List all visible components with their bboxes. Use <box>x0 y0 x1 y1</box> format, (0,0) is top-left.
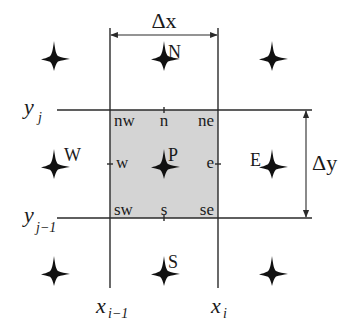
face-label-w: w <box>116 153 129 172</box>
node-label-north: N <box>168 42 181 62</box>
svg-text:i: i <box>223 306 227 321</box>
node-label-south: S <box>168 252 178 272</box>
node-label-west: W <box>64 145 81 165</box>
face-label-n: n <box>160 111 169 130</box>
axis-label-y-j-minus-1: y j−1 <box>22 202 56 235</box>
star-icon-east <box>259 149 288 179</box>
dx-label: Δx <box>151 8 176 33</box>
face-label-e: e <box>206 153 214 172</box>
svg-text:x: x <box>210 293 221 318</box>
face-label-s: s <box>161 200 168 219</box>
face-label-ne: ne <box>198 111 214 130</box>
svg-text:j−1: j−1 <box>34 220 56 235</box>
face-label-nw: nw <box>114 111 136 130</box>
control-volume-diagram: Δx Δy y j y j−1 x i−1 x i nw n ne w e sw… <box>0 0 356 334</box>
face-label-se: se <box>200 200 214 219</box>
star-icon-southeast <box>259 256 288 286</box>
svg-text:y: y <box>22 202 34 227</box>
svg-text:x: x <box>95 293 106 318</box>
svg-text:y: y <box>22 94 34 119</box>
star-icon-northeast <box>259 41 288 71</box>
node-label-east: E <box>250 150 261 170</box>
star-icon-southwest <box>41 256 70 286</box>
face-label-sw: sw <box>114 200 134 219</box>
svg-text:j: j <box>36 110 42 125</box>
axis-label-x-i: x i <box>210 293 227 321</box>
svg-text:i−1: i−1 <box>108 306 128 321</box>
axis-label-x-i-minus-1: x i−1 <box>95 293 128 321</box>
star-icon-northwest <box>41 41 70 71</box>
axis-label-y-j: y j <box>22 94 42 125</box>
dy-label: Δy <box>312 150 337 175</box>
node-label-center: P <box>168 145 178 165</box>
